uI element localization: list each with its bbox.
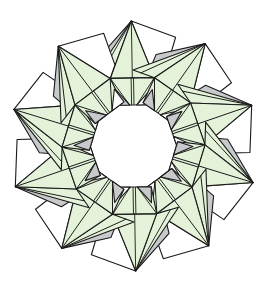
center-hole: [95, 107, 173, 185]
origami-star-diagram: [0, 0, 268, 285]
star-wreath-drawing: [0, 0, 268, 285]
